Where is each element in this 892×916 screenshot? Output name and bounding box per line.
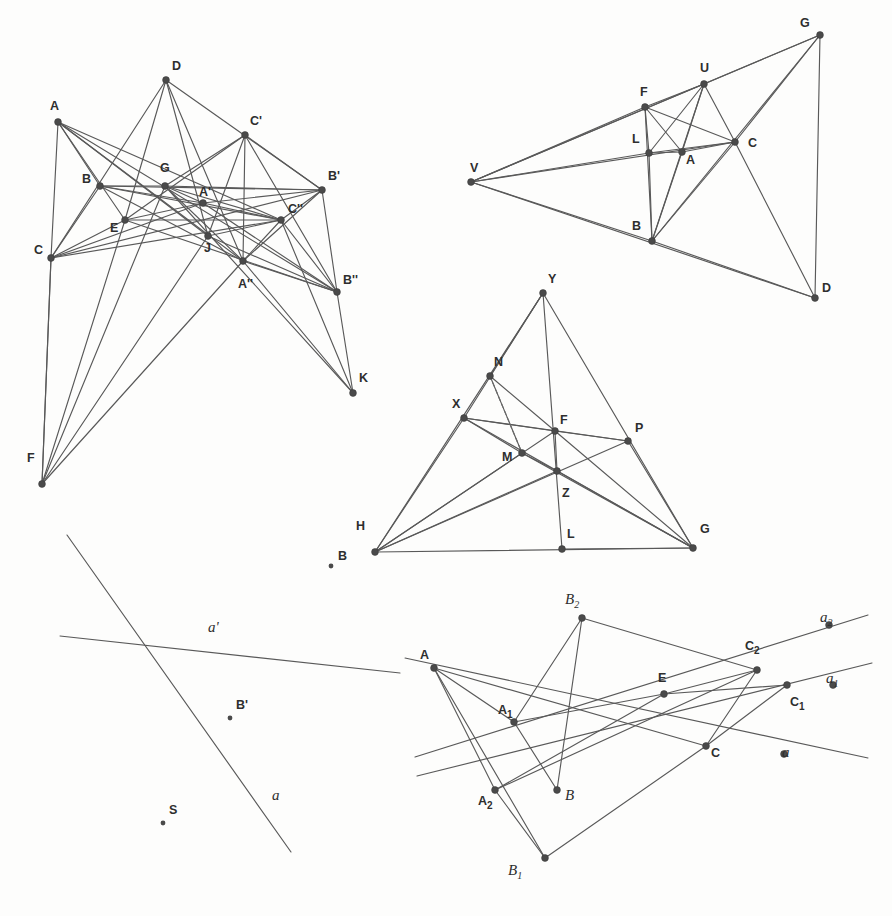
point-label-B: B [338,549,347,563]
point-label-C: C [711,746,720,760]
point-label-G: G [800,16,810,30]
point-label-B: B [565,787,574,803]
point-label-A: A [50,99,59,113]
point-label-B: B [82,172,91,186]
point-label-A: A' [199,185,211,199]
point-label-J: J [204,241,211,255]
point-label-H: H [356,519,365,533]
vertex-P [625,438,632,445]
point-label-D: D [172,59,181,73]
point-label-V: V [470,161,479,175]
vertex-C [703,743,710,750]
point-label-E: E [110,221,118,235]
vertex-M [519,450,526,457]
line-label-a: a [272,787,280,803]
vertex-V [468,179,475,186]
point-label-C: C' [250,114,262,128]
point-label-F: F [640,85,648,99]
vertex-C [278,217,285,224]
vertex-C [732,139,739,146]
vertex-E [122,217,129,224]
point-label-G: G [160,161,170,175]
point-label-D: D [822,281,831,295]
vertex-A [240,258,247,265]
vertex-U [701,81,708,88]
line-label-ap: a' [208,619,220,635]
point-label-F: F [27,451,35,465]
vertex-Z [554,468,561,475]
vertex-D [163,77,170,84]
vertex-G [817,32,824,39]
vertex-G [690,545,697,552]
point-label-M: M [502,450,512,464]
vertex-A [55,119,62,126]
vertex-F [39,481,46,488]
point-label-B: B' [236,698,248,712]
vertex-G [162,183,169,190]
point-label-L: L [632,132,640,146]
vertex-F [642,104,649,111]
vertex-B [334,289,341,296]
point-label-Y: Y [548,272,557,286]
point-label-A: A'' [238,277,253,291]
point-label-U: U [700,61,709,75]
point-label-A: A [686,153,695,167]
vertex-B [329,564,334,569]
geometry-plate: ADC'BGB'A'EC''JCA''B''KF GUFLACVBD YNXFP… [0,0,892,916]
point-label-Z: Z [562,486,570,500]
point-label-C: C [748,136,757,150]
point-label-L: L [567,527,575,541]
vertex-B [319,187,326,194]
point-label-S: S [169,803,177,817]
point-label-P: P [635,421,643,435]
point-label-A: A [420,648,429,662]
vertex-A [679,149,686,156]
vertex-K [350,390,357,397]
vertex-Y [540,290,547,297]
vertex-C [48,255,55,262]
point-label-B: B [632,219,641,233]
point-label-G: G [700,522,710,536]
vertex-D [812,295,819,302]
vertex-C [242,132,249,139]
vertex-B1 [542,855,549,862]
vertex-J [205,233,212,240]
vertex-S [161,821,166,826]
vertex-A2 [492,787,499,794]
vertex-L [559,546,566,553]
vertex-B [554,787,561,794]
vertex-C1 [784,682,791,689]
vertex-B [228,716,233,721]
point-label-B: B' [328,169,340,183]
page-background [0,0,892,916]
point-label-X: X [452,397,461,411]
point-label-C: C'' [288,202,303,216]
vertex-H [372,549,379,556]
point-label-N: N [494,355,503,369]
vertex-B [97,183,104,190]
vertex-N [487,373,494,380]
point-label-F: F [560,413,568,427]
vertex-X [461,415,468,422]
vertex-A1 [511,719,518,726]
point-label-C: C [34,243,43,257]
vertex-C2 [754,667,761,674]
vertex-E [661,691,668,698]
vertex-F [552,428,559,435]
point-label-E: E [658,671,666,685]
point-label-B: B'' [343,273,358,287]
point-label-K: K [359,371,368,385]
vertex-B2 [579,615,586,622]
vertex-B [649,238,656,245]
vertex-A [200,200,207,207]
vertex-L [646,150,653,157]
vertex-A [431,665,438,672]
point-label-a: a [782,744,790,760]
